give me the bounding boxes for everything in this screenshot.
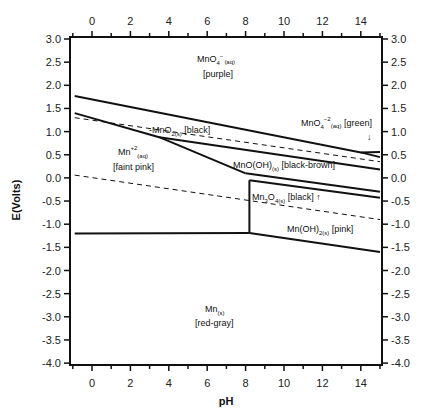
label-mnooh: MnO(OH)(s) [black-brown] (233, 160, 335, 172)
x-axis-label: pH (219, 395, 234, 407)
svg-text:[red-gray]: [red-gray] (195, 318, 234, 328)
x-tick-label-bottom: 10 (278, 377, 290, 389)
y-tick-label-left: -0.5 (42, 195, 61, 207)
y-tick-label-left: -1.5 (42, 241, 61, 253)
plot-frame (70, 37, 382, 365)
y-tick-label-right: -2.5 (391, 288, 410, 300)
y-tick-label-right: -1.0 (391, 218, 410, 230)
y-tick-label-right: -4.0 (391, 357, 410, 369)
y-tick-label-left: 0.0 (46, 172, 61, 184)
svg-text:Mn+2(aq): Mn+2(aq) (118, 145, 148, 159)
up-arrow-icon: ↑ (314, 192, 321, 202)
y-tick-label-left: 1.0 (46, 126, 61, 138)
y-tick-label-left: -1.0 (42, 218, 61, 230)
label-mnoh2: Mn(OH)2(s) [pink] (287, 224, 353, 236)
y-tick-label-left: 1.5 (46, 102, 61, 114)
svg-text:Mn(OH)2(s) [pink]: Mn(OH)2(s) [pink] (287, 224, 353, 236)
svg-text:[faint pink]: [faint pink] (113, 162, 154, 172)
y-tick-label-right: -3.0 (391, 311, 410, 323)
label-mno4-2: MnO4−2(aq) [green] ↓ (301, 116, 372, 142)
label-mn2: Mn+2(aq) [faint pink] (113, 145, 154, 172)
x-tick-label-top: 10 (278, 15, 290, 27)
svg-text:-MnO2(s) [black]: -MnO2(s) [black] (149, 125, 210, 137)
y-tick-label-left: -4.0 (42, 357, 61, 369)
svg-text:MnO4−(aq): MnO4−(aq) (197, 53, 235, 66)
pourbaix-diagram: 00224466881010121214143.03.02.52.52.02.0… (0, 0, 428, 414)
x-tick-label-top: 12 (316, 15, 328, 27)
x-tick-label-top: 14 (355, 15, 367, 27)
y-tick-label-right: 3.0 (391, 33, 406, 45)
svg-text:Mn(s): Mn(s) (205, 304, 225, 316)
y-tick-label-left: -3.5 (42, 334, 61, 346)
x-tick-label-bottom: 2 (127, 377, 133, 389)
label-mn: Mn(s) [red-gray] (195, 304, 234, 328)
x-tick-label-bottom: 4 (166, 377, 172, 389)
plot-border (70, 37, 382, 365)
svg-text:MnO4−2(aq) [green]: MnO4−2(aq) [green] (301, 116, 372, 130)
svg-text:[purple]: [purple] (203, 69, 233, 79)
y-tick-label-left: 0.5 (46, 149, 61, 161)
x-tick-label-top: 8 (243, 15, 249, 27)
x-tick-label-top: 0 (89, 15, 95, 27)
y-axis-label: E(Volts) (10, 179, 22, 220)
y-tick-label-right: 1.5 (391, 102, 406, 114)
x-tick-label-bottom: 12 (316, 377, 328, 389)
x-tick-label-top: 4 (166, 15, 172, 27)
x-tick-label-bottom: 14 (355, 377, 367, 389)
y-tick-label-left: 2.5 (46, 56, 61, 68)
y-tick-label-left: 2.0 (46, 79, 61, 91)
y-tick-label-right: 2.0 (391, 79, 406, 91)
y-tick-label-right: 1.0 (391, 126, 406, 138)
x-tick-label-bottom: 0 (89, 377, 95, 389)
y-tick-label-right: 2.5 (391, 56, 406, 68)
x-tick-label-bottom: 6 (204, 377, 210, 389)
y-tick-label-left: -2.5 (42, 288, 61, 300)
y-tick-label-right: -1.5 (391, 241, 410, 253)
x-tick-label-top: 6 (204, 15, 210, 27)
y-tick-label-left: -3.0 (42, 311, 61, 323)
boundary-line (75, 233, 250, 234)
y-tick-label-right: -3.5 (391, 334, 410, 346)
y-tick-label-right: 0.5 (391, 149, 406, 161)
boundary-line (249, 233, 380, 252)
x-tick-label-top: 2 (127, 15, 133, 27)
svg-text:MnO(OH)(s) [black-brown]: MnO(OH)(s) [black-brown] (233, 160, 335, 172)
x-tick-label-bottom: 8 (243, 377, 249, 389)
y-tick-label-right: -0.5 (391, 195, 410, 207)
y-tick-label-left: 3.0 (46, 33, 61, 45)
boundary-line (75, 113, 246, 173)
label-mno4: MnO4−(aq) [purple] (197, 53, 235, 79)
label-mno2: -MnO2(s) [black] (149, 125, 210, 137)
y-tick-label-right: -2.0 (391, 265, 410, 277)
y-tick-label-left: -2.0 (42, 265, 61, 277)
down-arrow-icon: ↓ (367, 132, 372, 142)
y-tick-label-right: 0.0 (391, 172, 406, 184)
boundary-line (75, 175, 380, 220)
